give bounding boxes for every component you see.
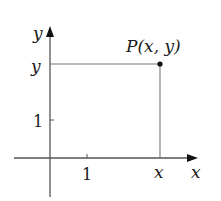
y-tick-label: 1	[33, 112, 43, 131]
y-coord-label: y	[30, 56, 41, 76]
x-axis-arrow-icon	[187, 154, 198, 162]
x-coord-label: x	[154, 162, 164, 182]
y-axis-arrow-icon	[46, 26, 54, 37]
point-label: P(x, y)	[125, 36, 181, 56]
y-axis-label: y	[32, 23, 43, 43]
coordinate-diagram: y y 1 1 x x P(x, y)	[0, 0, 221, 201]
x-tick-label: 1	[82, 165, 92, 184]
x-axis-label: x	[191, 162, 201, 182]
point-p	[157, 61, 162, 66]
